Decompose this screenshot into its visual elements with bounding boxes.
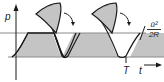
time-axis-label: t [139,66,142,76]
threshold-label: ū² 2R [146,20,162,39]
arrow-head-1 [71,22,75,26]
threshold-numerator: ū² [146,20,162,29]
cut-off-peak-2 [92,3,117,33]
threshold-denominator: 2R [146,30,162,39]
arrow-head-2 [127,22,131,26]
redistribution-arrow-2 [120,13,129,23]
period-label: T [123,66,129,76]
p-axis-arrow-head [14,4,19,11]
time-arrow-head [156,63,162,68]
p-axis-label: p [5,12,11,22]
redistribution-arrow-1 [64,13,73,23]
cut-off-peak-1 [36,3,61,33]
